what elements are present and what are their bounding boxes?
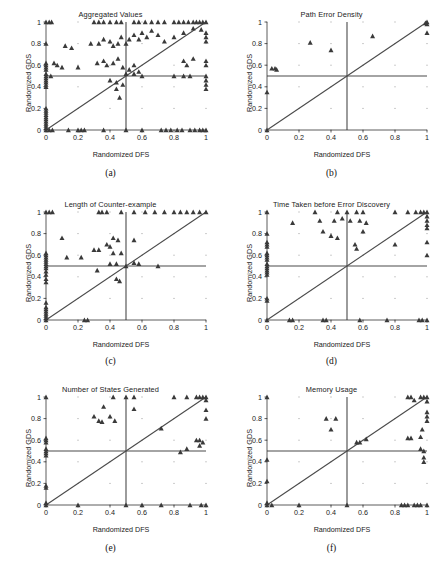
data-point-marker xyxy=(176,20,181,25)
y-tick-label: 0.8 xyxy=(252,229,262,238)
x-tick-label: 0.6 xyxy=(137,323,147,332)
x-tick-label: 1 xyxy=(204,508,208,517)
grid-dot xyxy=(331,298,332,299)
data-point-marker xyxy=(418,434,423,439)
x-tick-label: 0.2 xyxy=(73,133,83,142)
grid-dot xyxy=(299,255,300,256)
data-point-marker xyxy=(52,61,57,66)
data-point-marker xyxy=(152,210,157,215)
data-point-marker xyxy=(184,395,189,400)
x-tick-label: 0.8 xyxy=(390,508,400,517)
grid-dot xyxy=(331,483,332,484)
grid-dot xyxy=(206,483,207,484)
data-point-marker xyxy=(199,27,204,32)
grid-dot xyxy=(174,65,175,66)
x-tick-label: 0.4 xyxy=(105,323,115,332)
y-tick-label: 0.4 xyxy=(31,272,41,281)
y-tick-label: 0.4 xyxy=(252,82,262,91)
grid-dot xyxy=(363,461,364,462)
data-point-marker xyxy=(308,40,313,45)
data-point-marker xyxy=(100,210,105,215)
data-point-marker xyxy=(69,45,74,50)
y-tick-label: 0.8 xyxy=(31,39,41,48)
grid-dot xyxy=(427,276,428,277)
data-point-marker xyxy=(132,260,137,265)
data-point-marker xyxy=(44,300,49,305)
grid-dot xyxy=(206,255,207,256)
grid-dot xyxy=(78,22,79,23)
grid-dot xyxy=(299,22,300,23)
panel-d: Time Taken before Error Discovery Random… xyxy=(221,190,442,375)
caption-d: (d) xyxy=(221,356,442,366)
x-tick-label: 0 xyxy=(44,508,48,517)
grid-dot xyxy=(427,65,428,66)
data-point-marker xyxy=(425,418,430,423)
data-point-marker xyxy=(104,242,109,247)
data-point-marker xyxy=(119,210,124,215)
x-tick-label: 0.8 xyxy=(169,133,179,142)
grid-dot xyxy=(174,483,175,484)
x-tick-label: 1 xyxy=(425,133,429,142)
data-point-marker xyxy=(111,235,116,240)
data-point-marker xyxy=(425,30,430,35)
data-point-marker xyxy=(143,210,148,215)
data-point-marker xyxy=(191,26,196,31)
data-point-marker xyxy=(204,210,209,215)
x-tick-label: 0.2 xyxy=(294,323,304,332)
data-point-marker xyxy=(162,20,167,25)
data-point-marker xyxy=(204,35,209,40)
data-point-marker xyxy=(425,218,430,223)
data-point-marker xyxy=(425,399,430,404)
grid-dot xyxy=(174,86,175,87)
y-tick-label: 1 xyxy=(258,18,262,27)
grid-dot xyxy=(299,397,300,398)
grid-dot xyxy=(427,108,428,109)
scatter-plot-e: 00.20.40.60.8100.20.40.60.81 xyxy=(0,375,221,566)
data-point-marker xyxy=(181,20,186,25)
data-point-marker xyxy=(132,406,137,411)
y-tick-label: 0.6 xyxy=(252,436,262,445)
x-tick-label: 0.2 xyxy=(73,508,83,517)
data-point-marker xyxy=(197,438,202,443)
scatter-plot-f: 00.20.40.60.8100.20.40.60.81 xyxy=(221,375,442,566)
data-point-marker xyxy=(117,95,122,100)
grid-dot xyxy=(395,461,396,462)
grid-dot xyxy=(299,418,300,419)
x-tick-label: 0 xyxy=(44,133,48,142)
data-point-marker xyxy=(108,261,113,266)
grid-dot xyxy=(395,483,396,484)
data-point-marker xyxy=(92,414,97,419)
x-tick-label: 0 xyxy=(265,133,269,142)
grid-dot xyxy=(331,418,332,419)
data-point-marker xyxy=(143,20,148,25)
grid-dot xyxy=(78,212,79,213)
data-point-marker xyxy=(191,210,196,215)
data-point-marker xyxy=(132,238,137,243)
grid-dot xyxy=(110,255,111,256)
y-tick-label: 0.4 xyxy=(31,457,41,466)
grid-dot xyxy=(427,233,428,234)
grid-dot xyxy=(427,461,428,462)
data-point-marker xyxy=(354,246,359,251)
data-point-marker xyxy=(124,395,129,400)
data-point-marker xyxy=(324,416,329,421)
y-tick-label: 0.2 xyxy=(31,294,41,303)
grid-dot xyxy=(142,276,143,277)
x-tick-label: 0.2 xyxy=(294,133,304,142)
grid-dot xyxy=(363,483,364,484)
grid-dot xyxy=(363,298,364,299)
grid-dot xyxy=(110,483,111,484)
grid-dot xyxy=(331,440,332,441)
y-tick-label: 0.4 xyxy=(31,82,41,91)
x-tick-label: 0.4 xyxy=(326,508,336,517)
data-point-marker xyxy=(92,20,97,25)
panel-c: Length of Counter-example Randomized GDS… xyxy=(0,190,221,375)
x-tick-label: 0.8 xyxy=(169,323,179,332)
data-point-marker xyxy=(329,233,334,238)
grid-dot xyxy=(78,86,79,87)
data-point-marker xyxy=(172,395,177,400)
data-point-marker xyxy=(425,414,430,419)
grid-dot xyxy=(331,108,332,109)
grid-dot xyxy=(78,440,79,441)
panel-b: Path Error Density Randomized GDS 00.20.… xyxy=(221,0,442,190)
